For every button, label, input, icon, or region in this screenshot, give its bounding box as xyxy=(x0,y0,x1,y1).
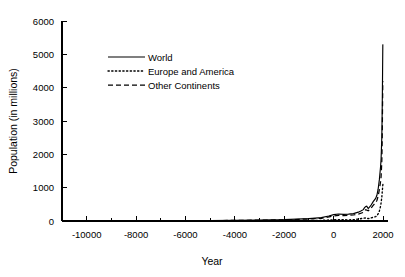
x-tick-label: 2000 xyxy=(372,229,393,240)
x-tick-label: 0 xyxy=(331,229,336,240)
y-tick-label: 3000 xyxy=(33,116,54,127)
chart-canvas: 0100020003000400050006000 -10000-8000-60… xyxy=(0,0,405,277)
x-tick-label: -8000 xyxy=(124,229,148,240)
population-line-chart: 0100020003000400050006000 -10000-8000-60… xyxy=(0,0,405,277)
x-tick-label: -6000 xyxy=(173,229,197,240)
y-tick-label: 5000 xyxy=(33,49,54,60)
y-tick-label: 1000 xyxy=(33,182,54,193)
y-axis-title: Population (in millions) xyxy=(7,68,19,174)
y-tick-label: 2000 xyxy=(33,149,54,160)
legend-label: Other Continents xyxy=(148,80,220,91)
chart-background xyxy=(0,0,405,277)
x-tick-label: -2000 xyxy=(272,229,296,240)
legend-label: World xyxy=(148,52,173,63)
x-tick-label: -10000 xyxy=(72,229,102,240)
y-tick-label: 6000 xyxy=(33,16,54,27)
legend-label: Europe and America xyxy=(148,66,235,77)
x-axis-title: Year xyxy=(201,255,223,267)
y-tick-label: 4000 xyxy=(33,82,54,93)
y-tick-label: 0 xyxy=(49,216,54,227)
x-tick-label: -4000 xyxy=(223,229,247,240)
